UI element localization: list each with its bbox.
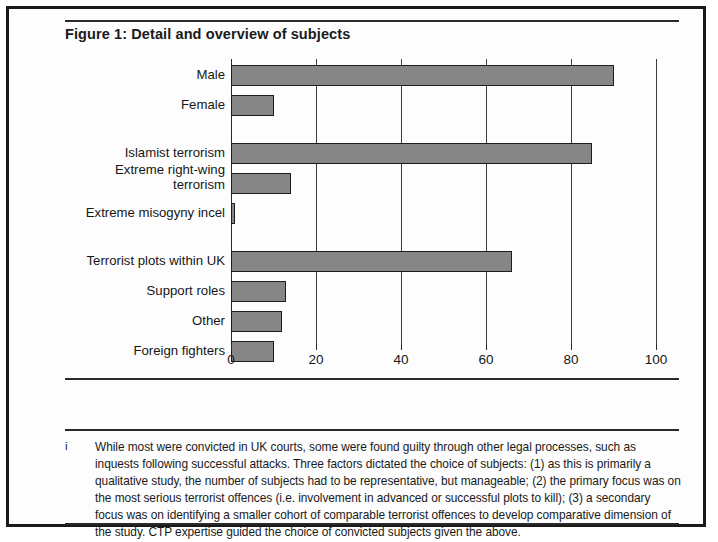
category-label: Extreme right-wing terrorism: [5, 162, 225, 192]
plot-area: [231, 59, 656, 344]
bar: [231, 143, 592, 164]
x-axis: 020406080100: [231, 344, 656, 370]
footnote-marker: i: [65, 440, 68, 452]
tick-label: 20: [308, 352, 323, 367]
tick-mark-40: [401, 344, 402, 350]
bar-chart: MaleFemaleIslamist terrorismExtreme righ…: [9, 53, 703, 369]
bar: [231, 65, 614, 86]
category-label: Foreign fighters: [5, 343, 225, 358]
rule-top: [65, 20, 679, 22]
gridline-100: [656, 59, 657, 344]
bar: [231, 203, 235, 224]
bar-row: [231, 311, 656, 332]
bar: [231, 251, 512, 272]
tick-label: 0: [227, 352, 235, 367]
category-label: Support roles: [5, 283, 225, 298]
tick-mark-60: [486, 344, 487, 350]
tick-label: 40: [393, 352, 408, 367]
rule-below-chart: [65, 378, 679, 380]
bar-row: [231, 203, 656, 224]
tick-mark-20: [316, 344, 317, 350]
bar-row: [231, 95, 656, 116]
tick-mark-80: [571, 344, 572, 350]
bar-row: [231, 173, 656, 194]
footnote: i While most were convicted in UK courts…: [65, 439, 681, 542]
figure-title: Figure 1: Detail and overview of subject…: [65, 26, 350, 42]
bar: [231, 173, 291, 194]
rule-above-footnote: [65, 429, 679, 431]
figure-inner: Figure 1: Detail and overview of subject…: [9, 9, 703, 524]
category-label: Male: [5, 67, 225, 82]
footnote-text: While most were convicted in UK courts, …: [95, 439, 681, 542]
bar: [231, 281, 286, 302]
bar: [231, 95, 274, 116]
category-label: Other: [5, 313, 225, 328]
tick-label: 100: [645, 352, 668, 367]
category-label: Extreme misogyny incel: [5, 205, 225, 220]
bar-row: [231, 65, 656, 86]
tick-label: 80: [563, 352, 578, 367]
figure-frame: Figure 1: Detail and overview of subject…: [6, 6, 706, 527]
category-label: Female: [5, 97, 225, 112]
rule-footer: [65, 523, 679, 525]
tick-mark-100: [656, 344, 657, 350]
tick-mark-0: [231, 344, 232, 350]
bar-row: [231, 281, 656, 302]
bar: [231, 311, 282, 332]
category-label: Terrorist plots within UK: [5, 253, 225, 268]
category-label: Islamist terrorism: [5, 145, 225, 160]
bar-row: [231, 143, 656, 164]
category-labels: MaleFemaleIslamist terrorismExtreme righ…: [9, 59, 225, 344]
tick-label: 60: [478, 352, 493, 367]
bar-row: [231, 251, 656, 272]
